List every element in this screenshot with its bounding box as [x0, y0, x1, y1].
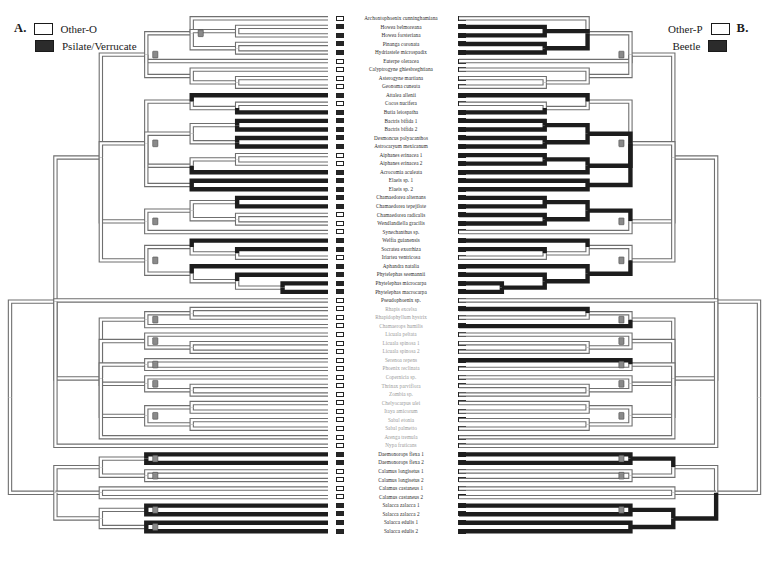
taxon-label: Phytelephas seemannii	[345, 270, 457, 279]
taxon-label: Asterogyne martiana	[345, 74, 457, 83]
branch-internal-core	[10, 397, 55, 493]
terminal-state-cell-a	[330, 57, 344, 66]
node-state-mark	[619, 257, 624, 264]
taxon-label: Calamus castaneus 1	[345, 484, 457, 493]
terminal-state-cell-a	[330, 364, 344, 373]
state-box-a-open	[336, 358, 344, 363]
branch-terminal	[459, 155, 545, 159]
state-box-a-open	[336, 221, 344, 226]
branch-terminal	[237, 249, 328, 253]
node-state-mark	[153, 507, 158, 514]
branch-internal-core	[192, 159, 237, 165]
terminal-state-cell-a	[330, 245, 344, 254]
taxon-label: Chamaedorea alternans	[345, 193, 457, 202]
branch-internal-core	[545, 76, 588, 82]
branch-internal	[673, 493, 716, 519]
terminal-state-cell-a	[330, 99, 344, 108]
branch-terminal-core	[459, 335, 630, 341]
branch-terminal	[459, 185, 588, 189]
taxon-label: Calamus longisetus 2	[345, 476, 457, 485]
state-box-a-filled	[336, 41, 344, 46]
branch-terminal	[283, 283, 328, 287]
branch-internal	[101, 365, 146, 379]
taxon-label: Bactris bifida 1	[345, 117, 457, 126]
branch-internal	[55, 302, 100, 379]
branch-internal-core	[55, 157, 100, 301]
terminal-state-cell-a	[330, 416, 344, 425]
node-state-mark	[619, 140, 624, 147]
node-state-mark	[153, 140, 158, 147]
terminal-state-cell-a	[330, 433, 344, 442]
branch-terminal	[146, 506, 328, 510]
terminal-state-cell-a	[330, 176, 344, 185]
node-state-mark	[619, 455, 624, 462]
state-box-a-filled	[336, 503, 344, 508]
state-box-a-open	[336, 101, 344, 106]
branch-internal-core	[146, 102, 191, 144]
terminal-state-cell-a	[330, 390, 344, 399]
branch-internal	[630, 320, 673, 379]
node-state-mark	[153, 338, 158, 345]
branch-terminal	[459, 360, 630, 364]
terminal-state-boxes-a	[330, 14, 344, 535]
branch-terminal	[459, 198, 545, 202]
node-state-mark	[619, 338, 624, 345]
terminal-state-cell-a	[330, 330, 344, 339]
branch-internal	[192, 202, 237, 211]
terminal-state-cell-a	[330, 518, 344, 527]
terminal-state-cell-a	[330, 339, 344, 348]
branch-terminal	[459, 215, 545, 219]
state-box-a-filled	[336, 144, 344, 149]
taxon-label: Archontophoenix cunninghamiana	[345, 14, 457, 23]
branch-internal	[10, 302, 55, 398]
branch-terminal-core	[146, 335, 328, 341]
branch-terminal-core	[459, 70, 588, 76]
branch-terminal	[459, 44, 545, 48]
branch-internal	[673, 157, 716, 301]
branch-terminal	[459, 159, 545, 163]
branch-internal	[630, 157, 673, 260]
state-box-a-filled	[336, 460, 344, 465]
branch-internal-core	[545, 247, 588, 253]
state-box-a-open	[336, 341, 344, 346]
node-state-mark	[619, 218, 624, 225]
branch-terminal	[237, 121, 328, 125]
branch-internal	[545, 211, 588, 220]
branch-internal-core	[716, 397, 759, 493]
branch-terminal	[192, 241, 328, 247]
branch-internal-core	[673, 467, 716, 493]
taxon-label: Calamus castaneus 2	[345, 493, 457, 502]
terminal-state-cell-a	[330, 159, 344, 168]
terminal-state-cell-a	[330, 14, 344, 23]
taxon-label: Hydriastele microspadix	[345, 48, 457, 57]
branch-terminal	[459, 27, 545, 31]
branch-terminal	[459, 95, 588, 101]
state-box-a-open	[336, 67, 344, 72]
terminal-state-cell-a	[330, 236, 344, 245]
taxon-label: Copernicia sp.	[345, 373, 457, 382]
branch-terminal	[459, 506, 630, 510]
branch-internal	[101, 467, 146, 476]
state-box-a-open	[336, 255, 344, 260]
state-box-a-open	[336, 229, 344, 234]
state-box-a-filled	[336, 264, 344, 269]
taxon-label: Euterpe oleracea	[345, 57, 457, 66]
taxon-label: Pseudophoenix sp.	[345, 296, 457, 305]
branch-terminal	[283, 288, 328, 292]
node-state-mark	[153, 51, 158, 58]
taxon-label: Aphandra natalia	[345, 262, 457, 271]
taxon-label: Salacca edulis 2	[345, 527, 457, 536]
branch-internal	[146, 102, 191, 144]
state-box-a-filled	[336, 135, 344, 140]
terminal-state-cell-a	[330, 493, 344, 502]
node-state-mark	[153, 380, 158, 387]
terminal-state-cell-a	[330, 91, 344, 100]
branch-internal	[630, 459, 673, 468]
state-box-a-open	[336, 59, 344, 64]
branch-internal	[545, 202, 588, 211]
branch-terminal	[459, 48, 545, 52]
terminal-state-cell-a	[330, 211, 344, 220]
state-box-a-filled	[336, 50, 344, 55]
branch-internal	[10, 397, 55, 493]
taxon-label: Cocos nucifera	[345, 99, 457, 108]
